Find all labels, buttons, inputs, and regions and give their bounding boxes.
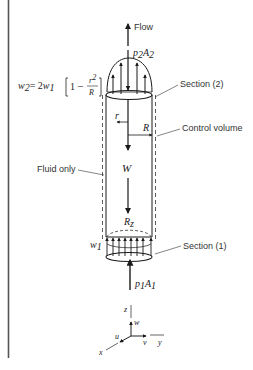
section-1-ellipse — [106, 253, 152, 262]
bottom-velocity-profile — [106, 237, 152, 256]
y-axis-label: y — [157, 338, 162, 347]
control-volume-diagram: Flow p2A2 w2= 2w1 1 – r2 R Sec — [0, 0, 253, 370]
svg-text:w2= 2w1: w2= 2w1 — [18, 80, 54, 93]
R-label: R — [142, 122, 149, 133]
w-axis-label: w — [134, 318, 140, 327]
z-axis-label: z — [123, 305, 128, 314]
fluid-only-leader — [78, 170, 104, 175]
v-axis-label: v — [143, 338, 147, 347]
control-volume-leader — [157, 129, 180, 136]
p1A1-label: p1A1 — [134, 278, 156, 291]
weight-label: W — [122, 162, 132, 174]
fluid-only-label: Fluid only — [37, 164, 76, 174]
control-volume-label: Control volume — [182, 123, 243, 133]
p2A2-label: p2A2 — [132, 47, 154, 60]
w1-label: w1 — [90, 239, 102, 252]
coordinate-axes — [106, 305, 164, 350]
u-axis-label: u — [115, 332, 119, 341]
section-1-label: Section (1) — [183, 241, 227, 251]
Rz-dashed-arc — [107, 230, 151, 237]
svg-text:p2A2: p2A2 — [132, 47, 154, 60]
r-label: r — [115, 110, 119, 121]
section-2-label: Section (2) — [180, 79, 224, 89]
svg-text:R: R — [88, 88, 94, 97]
section-2-leader — [155, 85, 178, 97]
svg-text:1: 1 — [70, 81, 75, 92]
velocity-equation: w2= 2w1 1 – r2 R — [18, 73, 101, 97]
Rz-label: Rz — [123, 216, 134, 229]
x-axis-label: x — [98, 348, 103, 357]
flow-label: Flow — [134, 22, 154, 32]
svg-text:r2: r2 — [89, 73, 96, 85]
section-1-leader — [155, 246, 181, 254]
svg-text:–: – — [77, 80, 84, 91]
